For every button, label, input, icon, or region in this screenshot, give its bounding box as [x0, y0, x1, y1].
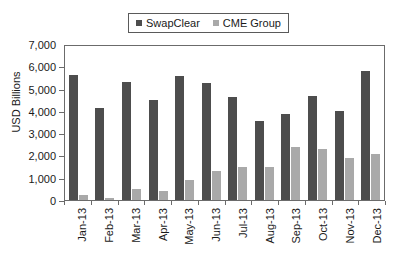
- x-axis-tick-label: Jul-13: [238, 208, 249, 238]
- y-axis-tick-mark: [59, 179, 64, 180]
- x-axis-tick-mark: [144, 201, 145, 205]
- y-axis-tick-mark: [59, 134, 64, 135]
- bar-cme-group: [185, 180, 194, 200]
- bar-swapclear: [69, 75, 78, 200]
- legend-entry-swapclear: SwapClear: [136, 18, 200, 29]
- y-axis-tick-label: 1,000: [14, 173, 56, 184]
- bar-cme-group: [318, 149, 327, 200]
- x-axis-tick-mark: [278, 201, 279, 205]
- x-axis-tick-mark: [91, 201, 92, 205]
- x-axis-tick-label-cell: May-13: [171, 206, 198, 262]
- x-axis-tick-label: Apr-13: [158, 208, 169, 241]
- x-axis-tick-mark: [332, 201, 333, 205]
- bar-cme-group: [105, 198, 114, 200]
- bar-cme-group: [265, 167, 274, 200]
- bar-group: [331, 46, 358, 200]
- bar-swapclear: [335, 111, 344, 200]
- bar-swapclear: [202, 83, 211, 200]
- bar-cme-group: [345, 158, 354, 200]
- bar-cme-group: [132, 189, 141, 200]
- x-axis-tick-mark: [225, 201, 226, 205]
- bar-swapclear: [281, 114, 290, 200]
- bar-group: [145, 46, 172, 200]
- x-axis-tick-label: Mar-13: [131, 208, 142, 243]
- bar-group: [357, 46, 384, 200]
- bar-cme-group: [238, 167, 247, 200]
- x-axis-tick-label-cell: Aug-13: [251, 206, 278, 262]
- x-axis-tick-label-cell: Dec-13: [358, 206, 385, 262]
- legend-swatch-swapclear: [136, 20, 142, 26]
- x-axis-tick-label: Aug-13: [265, 208, 276, 243]
- bar-cme-group: [79, 195, 88, 201]
- bar-swapclear: [149, 100, 158, 200]
- bar-swapclear: [122, 82, 131, 200]
- x-axis-tick-mark: [171, 201, 172, 205]
- x-axis-tick-label-cell: Mar-13: [118, 206, 145, 262]
- x-axis-tick-mark: [358, 201, 359, 205]
- bar-group: [251, 46, 278, 200]
- y-axis-tick-label: 3,000: [14, 129, 56, 140]
- x-axis-tick-mark: [305, 201, 306, 205]
- bar-group: [278, 46, 305, 200]
- y-axis-tick-label: 5,000: [14, 84, 56, 95]
- x-axis-tick-label: Sep-13: [291, 208, 302, 243]
- x-axis-tick-label-cell: Feb-13: [91, 206, 118, 262]
- x-axis-tick-mark: [198, 201, 199, 205]
- x-axis-tick-label-cell: Jan-13: [64, 206, 91, 262]
- bar-group: [171, 46, 198, 200]
- x-axis-tick-label: Oct-13: [318, 208, 329, 241]
- legend-entry-cme-group: CME Group: [213, 18, 281, 29]
- bar-group: [304, 46, 331, 200]
- y-axis-tick-mark: [59, 67, 64, 68]
- x-axis-tick-label: Nov-13: [345, 208, 356, 243]
- x-axis-tick-label: Jun-13: [211, 208, 222, 242]
- bar-cme-group: [291, 147, 300, 200]
- bar-group: [224, 46, 251, 200]
- bar-swapclear: [95, 108, 104, 200]
- x-axis-tick-label: Feb-13: [104, 208, 115, 243]
- bar-cme-group: [212, 171, 221, 200]
- bar-cme-group: [371, 154, 380, 200]
- y-axis-tick-label: 7,000: [14, 40, 56, 51]
- bar-cme-group: [159, 191, 168, 200]
- y-axis-tick-mark: [59, 90, 64, 91]
- bar-swapclear: [175, 76, 184, 200]
- y-axis-tick-mark: [59, 112, 64, 113]
- chart-legend: SwapClear CME Group: [128, 13, 289, 33]
- x-axis-tick-label-cell: Apr-13: [144, 206, 171, 262]
- x-axis-tick-mark: [64, 201, 65, 205]
- x-axis-tick-label-cell: Oct-13: [305, 206, 332, 262]
- y-axis-tick-label: 6,000: [14, 62, 56, 73]
- bar-swapclear: [308, 96, 317, 200]
- bar-chart: SwapClear CME Group USD Billions 01,0002…: [0, 0, 412, 265]
- y-axis-tick-label: 0: [14, 196, 56, 207]
- x-axis-tick-label: May-13: [184, 208, 195, 245]
- legend-swatch-cme-group: [213, 20, 219, 26]
- x-axis-tick-labels: Jan-13Feb-13Mar-13Apr-13May-13Jun-13Jul-…: [64, 206, 385, 262]
- y-axis-tick-mark: [59, 156, 64, 157]
- bar-group: [118, 46, 145, 200]
- y-axis-tick-label: 2,000: [14, 151, 56, 162]
- plot-area: [64, 45, 385, 201]
- x-axis-tick-label: Jan-13: [77, 208, 88, 242]
- x-axis-tick-label: Dec-13: [372, 208, 383, 243]
- x-axis-tick-mark: [118, 201, 119, 205]
- legend-label-cme-group: CME Group: [223, 18, 281, 29]
- x-axis-tick-label-cell: Jun-13: [198, 206, 225, 262]
- y-axis-tick-labels: 01,0002,0003,0004,0005,0006,0007,000: [12, 0, 56, 265]
- bar-swapclear: [228, 97, 237, 200]
- legend-label-swapclear: SwapClear: [146, 18, 200, 29]
- x-axis-tick-mark: [385, 201, 386, 205]
- bar-group: [65, 46, 92, 200]
- x-axis-tick-label-cell: Sep-13: [278, 206, 305, 262]
- bar-group: [198, 46, 225, 200]
- x-axis-tick-label-cell: Jul-13: [225, 206, 252, 262]
- bar-swapclear: [361, 71, 370, 200]
- y-axis-tick-label: 4,000: [14, 106, 56, 117]
- bar-groups: [65, 46, 384, 200]
- bar-group: [92, 46, 119, 200]
- x-axis-tick-label-cell: Nov-13: [332, 206, 359, 262]
- bar-swapclear: [255, 121, 264, 200]
- x-axis-tick-mark: [251, 201, 252, 205]
